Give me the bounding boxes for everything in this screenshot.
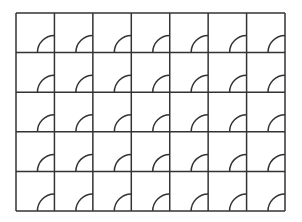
quarter-arc: [37, 36, 54, 53]
quarter-arc: [230, 75, 247, 92]
quarter-arc: [37, 154, 54, 171]
quarter-arc: [268, 36, 285, 53]
quarter-arc: [268, 75, 285, 92]
quarter-arc: [114, 154, 131, 171]
quarter-arc: [153, 36, 170, 53]
quarter-arc: [114, 115, 131, 132]
quarter-arc: [191, 75, 208, 92]
quarter-arc: [153, 115, 170, 132]
quarter-arc: [230, 154, 247, 171]
quarter-arc: [230, 194, 247, 211]
quarter-arc: [114, 36, 131, 53]
quarter-arc: [230, 115, 247, 132]
quarter-arc: [191, 115, 208, 132]
quarter-arc: [191, 154, 208, 171]
quarter-arc: [114, 194, 131, 211]
quarter-arc: [76, 36, 93, 53]
quarter-arc: [153, 194, 170, 211]
quarter-arc: [76, 115, 93, 132]
quarter-arc: [37, 115, 54, 132]
quarter-arc: [76, 154, 93, 171]
quarter-arc: [268, 154, 285, 171]
quarter-arc: [268, 115, 285, 132]
tiling-grid-diagram: [0, 0, 302, 222]
quarter-arc: [37, 75, 54, 92]
quarter-arc: [114, 75, 131, 92]
quarter-arc: [76, 75, 93, 92]
quarter-arc: [153, 75, 170, 92]
quarter-arc: [153, 154, 170, 171]
quarter-arc: [191, 194, 208, 211]
quarter-arc: [268, 194, 285, 211]
quarter-arc: [230, 36, 247, 53]
quarter-arc: [191, 36, 208, 53]
quarter-arc: [37, 194, 54, 211]
quarter-arc: [76, 194, 93, 211]
